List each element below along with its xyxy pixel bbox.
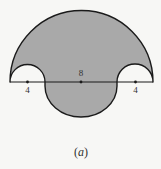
center-point <box>80 81 83 84</box>
label-left-4: 4 <box>25 85 30 95</box>
label-right-4: 4 <box>133 85 138 95</box>
shaded-region <box>10 10 153 117</box>
figure-caption: (a) <box>74 145 88 159</box>
right-center-point <box>134 81 137 84</box>
shaded-region-diagram: 4 8 4 (a) <box>0 0 161 169</box>
caption-close-paren: ) <box>84 145 88 159</box>
figure-canvas: 4 8 4 (a) <box>0 0 161 169</box>
label-center-8: 8 <box>79 68 84 78</box>
left-center-point <box>26 81 29 84</box>
